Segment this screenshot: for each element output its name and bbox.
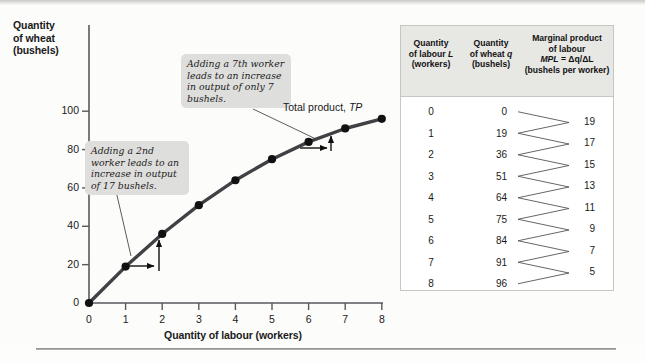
header-line-1: Marginal product	[521, 33, 613, 44]
marginal-product-table: Quantityof labour L(workers) Quantityof …	[400, 25, 614, 291]
curve-label-text: Total product,	[283, 101, 349, 113]
y-axis-title-line: Quantity	[13, 19, 83, 32]
x-tick-label: 6	[301, 313, 317, 325]
cell-marginal-product: 7	[573, 245, 595, 256]
bottom-divider-rule	[36, 348, 616, 350]
cell-quantity-wheat: 51	[461, 171, 521, 182]
cell-marginal-product: 5	[573, 266, 595, 277]
cell-quantity-labour: 4	[401, 192, 461, 203]
cell-quantity-labour: 0	[401, 106, 461, 117]
cell-marginal-product: 13	[573, 180, 595, 191]
x-tick-label: 1	[118, 313, 134, 325]
table-body: 00119236351464575684791896 1917151311975	[401, 97, 613, 291]
callout-7th-worker: Adding a 7th worker leads to an increase…	[181, 54, 291, 108]
header-line-1: Quantity	[461, 38, 521, 49]
data-point-marker	[158, 230, 166, 238]
cell-marginal-product: 15	[573, 159, 595, 170]
data-point-marker	[195, 201, 203, 209]
y-tick-label: 40	[37, 219, 79, 231]
x-tick-label: 7	[337, 313, 353, 325]
y-axis-title: Quantityof wheat(bushels)	[13, 19, 83, 57]
x-axis-title: Quantity of labour (workers)	[108, 329, 358, 342]
data-point-marker	[122, 262, 130, 270]
header-line-3: (workers)	[401, 59, 461, 70]
cell-quantity-labour: 5	[401, 214, 461, 225]
cell-quantity-labour: 6	[401, 235, 461, 246]
column-header-marginal-product: Marginal productof labourMPL = Δq/ΔL(bus…	[521, 26, 613, 96]
cell-quantity-wheat: 96	[461, 278, 521, 289]
y-tick-label: 0	[37, 296, 79, 308]
y-tick-label: 80	[37, 143, 79, 155]
data-point-marker	[268, 155, 276, 163]
callout-2nd-worker: Adding a 2nd worker leads to an increase…	[85, 141, 189, 195]
cell-quantity-labour: 7	[401, 257, 461, 268]
header-line-3: MPL = Δq/ΔL	[521, 54, 613, 65]
cell-marginal-product: 17	[573, 137, 595, 148]
cell-quantity-labour: 3	[401, 171, 461, 182]
x-axis-ticks	[126, 303, 382, 310]
data-point-marker	[378, 115, 386, 123]
data-point-marker	[231, 176, 239, 184]
cell-quantity-wheat: 64	[461, 192, 521, 203]
column-header-quantity-labour: Quantityof labour L(workers)	[401, 26, 461, 96]
header-line-2: of labour L	[401, 49, 461, 60]
data-point-marker	[341, 124, 349, 132]
total-product-curve-label: Total product, TP	[283, 101, 362, 113]
y-tick-label: 20	[37, 258, 79, 270]
cell-quantity-labour: 1	[401, 128, 461, 139]
y-axis-title-line: of wheat	[13, 32, 83, 45]
x-tick-label: 0	[81, 313, 97, 325]
x-tick-label: 3	[191, 313, 207, 325]
cell-quantity-wheat: 75	[461, 214, 521, 225]
cell-quantity-wheat: 84	[461, 235, 521, 246]
cell-marginal-product: 11	[573, 202, 595, 213]
cell-quantity-wheat: 36	[461, 149, 521, 160]
y-axis-title-line: (bushels)	[13, 44, 83, 57]
table-header-row: Quantityof labour L(workers) Quantityof …	[401, 26, 613, 97]
column-header-quantity-wheat: Quantityof wheat q(bushels)	[461, 26, 521, 96]
cell-quantity-labour: 8	[401, 278, 461, 289]
x-tick-label: 5	[264, 313, 280, 325]
header-line-2: of labour	[521, 44, 613, 55]
data-point-marker	[305, 138, 313, 146]
cell-quantity-wheat: 19	[461, 128, 521, 139]
header-line-1: Quantity	[401, 38, 461, 49]
table-row-list: 00119236351464575684791896	[401, 97, 613, 295]
data-point-marker	[85, 299, 93, 307]
x-tick-label: 4	[227, 313, 243, 325]
header-line-2: of wheat q	[461, 49, 521, 60]
x-tick-label: 2	[154, 313, 170, 325]
cell-quantity-wheat: 91	[461, 257, 521, 268]
figure-container: Quantityof wheat(bushels) Quantity of la…	[0, 0, 645, 363]
total-product-chart: Quantityof wheat(bushels) Quantity of la…	[0, 5, 396, 343]
cell-marginal-product: 19	[573, 116, 595, 127]
y-tick-label: 100	[37, 104, 79, 116]
y-tick-label: 60	[37, 181, 79, 193]
header-line-3: (bushels)	[461, 59, 521, 70]
header-line-4: (bushels per worker)	[521, 65, 613, 76]
x-tick-label: 8	[374, 313, 390, 325]
cell-marginal-product: 9	[573, 223, 595, 234]
cell-quantity-labour: 2	[401, 149, 461, 160]
cell-quantity-wheat: 0	[461, 106, 521, 117]
curve-label-symbol: TP	[349, 101, 362, 113]
